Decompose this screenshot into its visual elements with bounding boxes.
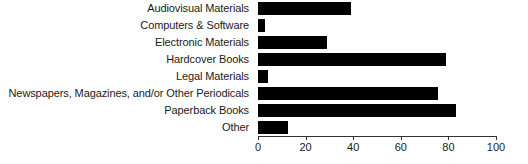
- category-label: Other: [0, 119, 254, 136]
- bar: [258, 53, 446, 66]
- bar: [258, 87, 438, 100]
- bar-row: [258, 85, 496, 102]
- bar-row: [258, 68, 496, 85]
- x-axis-tick-label: 100: [487, 141, 505, 153]
- category-label: Paperback Books: [0, 102, 254, 119]
- x-axis: 020406080100: [258, 136, 496, 164]
- bar: [258, 121, 288, 134]
- category-label-column: Audiovisual MaterialsComputers & Softwar…: [0, 0, 254, 136]
- bar-row: [258, 51, 496, 68]
- x-axis-tick-mark: [401, 136, 402, 140]
- bar-row: [258, 119, 496, 136]
- bar-row: [258, 0, 496, 17]
- bar-row: [258, 34, 496, 51]
- bar-chart: Audiovisual MaterialsComputers & Softwar…: [0, 0, 528, 164]
- category-label: Computers & Software: [0, 17, 254, 34]
- x-axis-tick-label: 40: [347, 141, 359, 153]
- category-label: Audiovisual Materials: [0, 0, 254, 17]
- x-axis-tick-label: 20: [299, 141, 311, 153]
- bar-row: [258, 102, 496, 119]
- category-label: Newspapers, Magazines, and/or Other Peri…: [0, 85, 254, 102]
- x-axis-tick-mark: [448, 136, 449, 140]
- category-label: Electronic Materials: [0, 34, 254, 51]
- bar-row: [258, 17, 496, 34]
- x-axis-line: [258, 136, 496, 137]
- x-axis-tick-mark: [258, 136, 259, 140]
- bar: [258, 70, 268, 83]
- bar: [258, 36, 327, 49]
- bar: [258, 2, 351, 15]
- x-axis-tick-label: 0: [255, 141, 261, 153]
- x-axis-tick-label: 60: [395, 141, 407, 153]
- x-axis-tick-mark: [353, 136, 354, 140]
- x-axis-tick-mark: [496, 136, 497, 140]
- plot-area: [258, 0, 496, 136]
- bar: [258, 104, 456, 117]
- x-axis-tick-label: 80: [442, 141, 454, 153]
- x-axis-tick-mark: [306, 136, 307, 140]
- category-label: Hardcover Books: [0, 51, 254, 68]
- bar: [258, 19, 265, 32]
- category-label: Legal Materials: [0, 68, 254, 85]
